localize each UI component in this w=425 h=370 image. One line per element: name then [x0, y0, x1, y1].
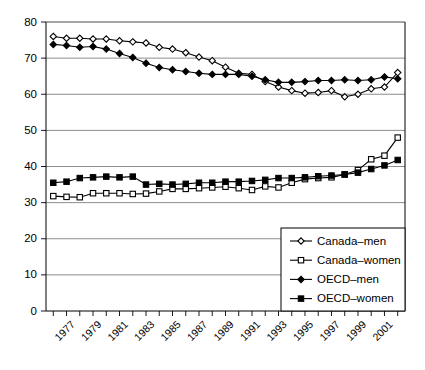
data-point — [289, 79, 295, 85]
data-point — [368, 77, 374, 83]
x-tick-label: 1987 — [184, 318, 209, 343]
data-point — [64, 194, 69, 199]
data-point — [222, 64, 228, 70]
data-point — [369, 166, 374, 171]
data-point — [223, 179, 228, 184]
data-point — [104, 174, 109, 179]
x-tick-label: 1983 — [131, 318, 156, 343]
y-tick-label: 70 — [24, 52, 37, 64]
data-point — [116, 50, 122, 56]
data-point — [103, 36, 109, 42]
data-point — [302, 78, 308, 84]
data-point — [90, 175, 95, 180]
data-point — [196, 180, 201, 185]
data-point — [183, 181, 188, 186]
data-point — [395, 157, 400, 162]
data-point — [210, 180, 215, 185]
data-point — [156, 44, 162, 50]
data-point — [263, 177, 268, 182]
legend-item-label: OECD–women — [317, 292, 394, 304]
data-point — [77, 35, 83, 41]
data-point — [64, 179, 69, 184]
data-point — [222, 71, 228, 77]
data-point — [236, 179, 241, 184]
data-point — [209, 71, 215, 77]
data-point — [302, 175, 307, 180]
data-point — [381, 74, 387, 80]
data-point — [143, 40, 149, 46]
data-point — [130, 39, 136, 45]
y-tick-label: 80 — [24, 16, 37, 28]
data-point — [302, 90, 308, 96]
data-point — [355, 77, 361, 83]
data-point — [169, 46, 175, 52]
x-tick-label: 1993 — [264, 318, 289, 343]
data-point — [289, 87, 295, 93]
data-point — [328, 87, 334, 93]
data-point — [117, 175, 122, 180]
y-axis-labels: 01020304050607080 — [24, 16, 37, 317]
x-axis-ticks — [53, 311, 397, 316]
data-point — [328, 77, 334, 83]
data-point — [249, 187, 254, 192]
data-point — [77, 195, 82, 200]
legend-marker-filled-square — [298, 296, 303, 301]
data-point — [196, 185, 201, 190]
data-point — [51, 193, 56, 198]
x-tick-label: 2001 — [370, 318, 395, 343]
data-point — [77, 44, 83, 50]
data-point — [355, 170, 360, 175]
data-point — [130, 174, 135, 179]
data-point — [63, 35, 69, 41]
data-point — [51, 180, 56, 185]
data-point — [263, 184, 268, 189]
x-tick-label: 1989 — [211, 318, 236, 343]
data-point — [236, 185, 241, 190]
legend-item-label: Canada–women — [317, 254, 401, 266]
line-chart: 01020304050607080 1977197919811983198519… — [0, 0, 425, 370]
data-point — [156, 64, 162, 70]
data-point — [130, 54, 136, 60]
data-point — [183, 68, 189, 74]
data-point — [395, 135, 400, 140]
data-point — [342, 77, 348, 83]
y-tick-label: 10 — [24, 268, 37, 280]
data-point — [276, 175, 281, 180]
data-point — [117, 191, 122, 196]
data-point — [368, 86, 374, 92]
y-tick-label: 0 — [31, 305, 37, 317]
data-point — [63, 42, 69, 48]
data-point — [196, 54, 202, 60]
data-point — [169, 66, 175, 72]
data-point — [116, 38, 122, 44]
data-point — [183, 50, 189, 56]
data-point — [355, 91, 361, 97]
x-tick-label: 1985 — [158, 318, 183, 343]
x-tick-label: 1991 — [237, 318, 262, 343]
x-tick-label: 1995 — [290, 318, 315, 343]
data-point — [143, 182, 148, 187]
data-point — [157, 181, 162, 186]
data-point — [104, 191, 109, 196]
legend-item-label: OECD–men — [317, 273, 379, 285]
data-point — [249, 178, 254, 183]
data-point — [342, 172, 347, 177]
data-point — [103, 46, 109, 52]
legend-item-label: Canada–men — [317, 235, 386, 247]
chart-canvas: 01020304050607080 1977197919811983198519… — [0, 0, 425, 370]
x-tick-label: 1999 — [343, 318, 368, 343]
data-point — [329, 173, 334, 178]
data-point — [382, 153, 387, 158]
y-tick-label: 40 — [24, 160, 37, 172]
data-point — [395, 76, 401, 82]
x-axis-labels: 1977197919811983198519871989199119931995… — [52, 318, 395, 343]
data-point — [143, 191, 148, 196]
data-point — [90, 36, 96, 42]
x-tick-label: 1977 — [52, 318, 77, 343]
data-point — [275, 79, 281, 85]
data-point — [77, 175, 82, 180]
y-tick-label: 20 — [24, 232, 37, 244]
x-tick-label: 1997 — [317, 318, 342, 343]
legend-marker-open-square — [298, 258, 303, 263]
data-point — [50, 33, 56, 39]
